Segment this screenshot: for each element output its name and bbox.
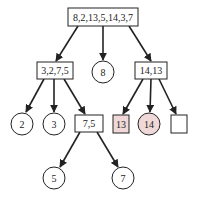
edge-arrow-root-to-right [129,26,151,61]
edge-arrow-right-to-empty [159,79,176,114]
node-box [171,115,187,133]
edge-arrow-left-to-n2 [26,79,44,112]
edge-arrow-n75-to-n7 [97,132,118,167]
edge-arrow-right-to-n14 [150,79,151,112]
tree-node-n2: 2 [11,113,33,135]
node-label: 3,2,7,5 [41,65,69,76]
edge-arrow-left-to-n75 [64,79,85,114]
edge-arrow-root-to-left [56,26,78,61]
node-label: 13 [116,119,126,130]
node-label: 7 [121,173,126,184]
edges-group [26,26,176,167]
tree-node-empty [171,115,187,133]
node-label: 14,13 [140,65,163,76]
edge-arrow-n75-to-n5 [60,132,80,167]
tree-node-root: 8,2,13,5,14,3,7 [68,8,138,26]
tree-node-left: 3,2,7,5 [37,62,73,79]
node-label: 5 [52,173,57,184]
node-label: 8 [101,67,106,78]
tree-node-n14: 14 [138,113,160,135]
tree-diagram: 8,2,13,5,14,3,73,2,7,5814,13237,5131457 [0,0,199,198]
tree-node-n75: 7,5 [75,115,103,132]
tree-node-n3: 3 [43,113,65,135]
tree-node-right: 14,13 [135,62,167,79]
tree-node-n7: 7 [112,167,134,189]
tree-node-n5: 5 [43,167,65,189]
edge-arrow-right-to-n13 [123,79,143,114]
nodes-group: 8,2,13,5,14,3,73,2,7,5814,13237,5131457 [11,8,187,189]
tree-node-n13: 13 [113,115,129,133]
node-label: 8,2,13,5,14,3,7 [73,12,133,23]
tree-node-mid: 8 [92,61,114,83]
node-label: 7,5 [83,118,96,129]
node-label: 3 [52,119,57,130]
node-label: 14 [144,119,154,130]
node-label: 2 [20,119,25,130]
